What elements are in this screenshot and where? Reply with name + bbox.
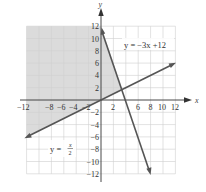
y-tick: 10 [91, 35, 99, 44]
y-tick: 8 [95, 47, 99, 56]
y-tick: −6 [90, 133, 99, 142]
coordinate-graph: x y −12 −8 −6 −4 −2 2 6 8 10 12 12 10 8 … [0, 0, 206, 192]
x-tick: −4 [69, 103, 78, 112]
svg-text:x: x [68, 142, 72, 148]
shaded-solution-region [27, 26, 123, 137]
x-tick: −6 [57, 103, 66, 112]
x-axis-label: x [194, 96, 199, 105]
equation-label-line2: y = x 2 [48, 140, 76, 157]
x-tick: 12 [171, 103, 179, 112]
svg-text:y =: y = [50, 144, 61, 154]
line-arrow-icon [169, 63, 176, 68]
y-axis-label: y [98, 0, 103, 9]
y-tick: 6 [95, 59, 99, 68]
equation-label-line1: y = −3x +12 [124, 40, 166, 50]
x-axis-arrow-icon [184, 97, 192, 102]
y-tick: 12 [91, 22, 99, 31]
y-tick: −8 [90, 145, 99, 154]
y-tick: −12 [86, 170, 99, 179]
x-tick: 6 [136, 103, 140, 112]
y-tick: 4 [95, 71, 99, 80]
x-tick: −8 [45, 103, 54, 112]
y-tick: 2 [95, 84, 99, 93]
x-tick: 8 [149, 103, 153, 112]
y-axis-arrow-icon [98, 8, 103, 16]
x-tick: 2 [111, 103, 115, 112]
x-tick: 10 [158, 103, 166, 112]
y-tick: −4 [90, 121, 99, 130]
svg-text:2: 2 [69, 150, 72, 156]
x-tick: −12 [17, 103, 30, 112]
y-tick: −10 [86, 158, 99, 167]
y-tick: −2 [90, 108, 99, 117]
